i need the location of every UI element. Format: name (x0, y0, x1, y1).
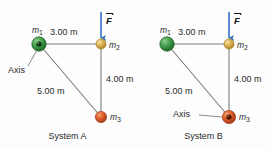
axis-leader-line (199, 115, 222, 117)
system-b-panel: F m1 m2 m3 3.00 m 4.00 m 5.00 m Axis Sys… (136, 0, 271, 148)
mass-label-m3-b: m3 (239, 113, 250, 122)
caption-system-b: System B (136, 131, 271, 141)
dimension-label-m2-m3-a: 4.00 m (106, 75, 134, 84)
force-label-text-b: F (234, 15, 240, 26)
axis-marker-highlight-m1 (37, 42, 39, 44)
vector-arrow-overbar-a (106, 13, 113, 14)
system-a-panel: F m1 m2 m3 3.00 m 4.00 m 5.00 m Axis Sys… (0, 0, 135, 148)
mass-sphere-m3 (95, 111, 106, 122)
mass-label-m3-a-sub: 3 (117, 116, 121, 123)
dimension-label-m1-m3-b: 5.00 m (165, 87, 193, 96)
vector-arrow-overbar-b (234, 13, 241, 14)
mass-label-m1-b-sub: 1 (167, 29, 171, 36)
mass-label-m2-b: m2 (237, 41, 248, 50)
dimension-label-m1-m3-a: 5.00 m (37, 87, 65, 96)
mass-label-m1-a: m1 (32, 26, 43, 35)
axis-label-b: Axis (173, 110, 190, 119)
mass-label-m2-b-sub: 2 (244, 44, 248, 51)
dimension-label-m2-m3-b: 4.00 m (234, 75, 262, 84)
force-label-b: F (234, 13, 241, 26)
force-label-text-a: F (106, 15, 112, 26)
mass-sphere-m1 (160, 37, 174, 51)
dimension-label-m1-m2-a: 3.00 m (50, 28, 78, 37)
rod-m1-m3 (167, 44, 229, 117)
axis-label-a: Axis (8, 66, 25, 75)
axis-marker-highlight-m3 (227, 115, 229, 117)
mass-label-m2-a-sub: 2 (116, 44, 120, 51)
mass-label-m1-a-sub: 1 (39, 29, 43, 36)
mass-label-m3-a: m3 (110, 113, 121, 122)
axis-marker-m1 (36, 41, 41, 46)
mass-sphere-m2 (96, 39, 106, 49)
mass-sphere-m2 (224, 39, 234, 49)
caption-system-a: System A (0, 131, 135, 141)
force-label-a: F (106, 13, 113, 26)
mass-label-m1-b: m1 (160, 26, 171, 35)
axis-leader-line (28, 50, 37, 66)
rod-m1-m3 (39, 44, 101, 117)
dimension-label-m1-m2-b: 3.00 m (178, 28, 206, 37)
mass-label-m2-a: m2 (109, 41, 120, 50)
physics-figure: F m1 m2 m3 3.00 m 4.00 m 5.00 m Axis Sys… (0, 0, 271, 148)
mass-label-m3-b-sub: 3 (246, 116, 250, 123)
